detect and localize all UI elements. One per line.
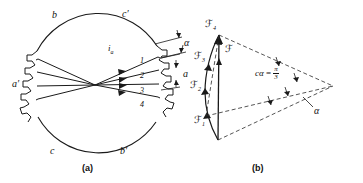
phasor-label-F2: ℱ2 bbox=[190, 80, 201, 92]
arc-angle-equals: = bbox=[266, 68, 271, 78]
phasor-symbol-F3: ℱ bbox=[194, 50, 202, 61]
phasor-label-F1: ℱ1 bbox=[194, 115, 205, 127]
phasor-subscript-F4: 4 bbox=[213, 25, 216, 31]
alpha-leader-line bbox=[303, 97, 313, 107]
arc-angle-fraction: π 3 bbox=[273, 66, 279, 82]
phasor-symbol-F1: ℱ bbox=[194, 114, 202, 125]
phasor-symbol-F2: ℱ bbox=[190, 79, 198, 90]
phasor-subscript-F2: 2 bbox=[198, 86, 201, 92]
phase-current-subscript: a bbox=[111, 49, 114, 55]
stator-bore-circle bbox=[37, 13, 157, 152]
vertex-angle-label: α bbox=[314, 106, 319, 116]
phase-current-label: ia bbox=[108, 44, 114, 55]
phase-label-c: c bbox=[50, 146, 54, 156]
resultant-phasor-label: ℱ bbox=[225, 44, 233, 54]
slot-number-2: 2 bbox=[140, 71, 144, 80]
caption-panel-b: (b) bbox=[252, 164, 264, 173]
phasor-subscript-F3: 3 bbox=[202, 57, 205, 63]
phasor-symbol-F4: ℱ bbox=[205, 18, 213, 29]
phase-label-a-prime: a′ bbox=[12, 79, 19, 89]
phasor-label-F3: ℱ3 bbox=[194, 51, 205, 63]
belt-span-label: a bbox=[183, 69, 188, 79]
slot-number-4: 4 bbox=[140, 100, 144, 109]
phasor-subscript-F1: 1 bbox=[202, 121, 205, 127]
resultant-phasor-line bbox=[218, 35, 219, 140]
arc-angle-denominator: 3 bbox=[273, 74, 279, 81]
slot-number-1: 1 bbox=[140, 56, 144, 65]
slot-comb-left bbox=[20, 51, 37, 122]
slot-number-3: 3 bbox=[139, 86, 144, 95]
phase-label-c-prime: c′ bbox=[122, 9, 129, 19]
phase-label-b-prime: b′ bbox=[120, 146, 127, 156]
arc-angle-lhs: cα bbox=[255, 68, 264, 78]
caption-panel-a: (a) bbox=[82, 164, 93, 173]
phase-label-b: b bbox=[52, 10, 57, 20]
resultant-mid-marker bbox=[216, 58, 222, 65]
panel-a-stator: 1 2 3 4 bbox=[20, 13, 186, 152]
phasor-label-F4: ℱ4 bbox=[205, 19, 216, 31]
panel-b-phasor bbox=[201, 35, 333, 140]
component-phasor-chain bbox=[205, 35, 219, 140]
slot-pitch-angle-label: α bbox=[184, 38, 189, 48]
arc-angle-formula: cα = π 3 bbox=[255, 66, 279, 82]
